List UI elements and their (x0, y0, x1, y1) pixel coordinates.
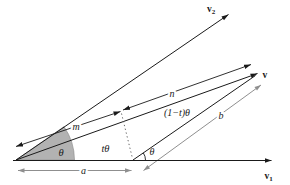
v2-vector-arrow (16, 15, 229, 161)
b-dimension-arrow (144, 85, 262, 171)
theta-origin-label: θ (58, 147, 63, 158)
segment-m-label: m (72, 121, 79, 132)
theta-foot-label: θ (150, 146, 155, 157)
segment-b-label: b (219, 110, 224, 121)
theta-angle-arc (143, 153, 145, 160)
v1-vector-label: v1 (265, 171, 274, 183)
figure-canvas: θ tθ (1−t)θ θ m n a b v2 v v1 (0, 0, 290, 185)
segment-n-label: n (170, 88, 175, 99)
slerp-figure: θ tθ (1−t)θ θ m n a b v2 v v1 (0, 0, 290, 185)
v2-subscript: 2 (212, 8, 216, 16)
v-vector-label: v (263, 70, 268, 80)
v2-vector-label: v2 (207, 4, 216, 16)
segment-a-label: a (81, 165, 86, 176)
v1-subscript: 1 (269, 175, 273, 183)
n-dimension-arrow (123, 65, 251, 111)
t-theta-label: tθ (101, 143, 109, 154)
one-minus-t-theta-label: (1−t)θ (164, 107, 190, 119)
